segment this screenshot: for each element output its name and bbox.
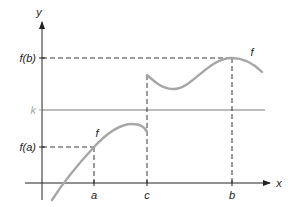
y-axis-label: y (35, 6, 43, 18)
curve-left-piece (52, 124, 147, 200)
dashed-guides (42, 58, 232, 183)
curve-label-left: f (95, 127, 99, 139)
curve-label-right: f (250, 46, 254, 58)
b-tick-label: b (229, 189, 235, 201)
fa-label: f(a) (20, 141, 37, 153)
x-axis-label: x (275, 177, 282, 189)
a-tick-label: a (91, 189, 97, 201)
tick-marks (39, 58, 232, 186)
k-label: k (31, 104, 37, 116)
c-tick-label: c (144, 189, 150, 201)
function-graph: y x f(b) k f(a) a c b f f (0, 0, 288, 207)
curve-right-piece (147, 58, 262, 89)
fb-label: f(b) (20, 52, 37, 64)
